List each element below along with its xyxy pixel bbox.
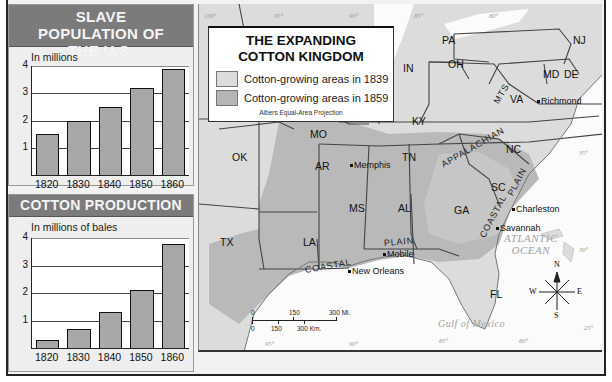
- scale-tick: [252, 317, 253, 324]
- compass-n: N: [554, 260, 560, 269]
- bar-1850: [130, 290, 153, 348]
- city-new-orleans: New Orleans: [348, 266, 404, 276]
- x-tick-label: 1840: [94, 178, 126, 190]
- state-label-tn: TN: [402, 151, 416, 163]
- state-label-pa: PA: [442, 34, 455, 46]
- lat-label: 30°: [579, 246, 588, 253]
- x-tick-label: 1860: [156, 351, 188, 363]
- compass-w: W: [529, 287, 537, 296]
- city-dot-icon: [348, 270, 351, 273]
- x-tick-label: 1830: [62, 351, 94, 363]
- lon-label: 90°: [349, 340, 358, 347]
- bar-1830: [67, 121, 90, 176]
- city-richmond: Richmond: [537, 96, 582, 106]
- slave-population-plot: [31, 66, 189, 176]
- legend-swatch-1859: [216, 90, 238, 106]
- slave-population-title: SLAVE POPULATION OF THE U.S.: [9, 5, 193, 47]
- y-tick-label: 2: [18, 286, 28, 297]
- x-tick-label: 1840: [94, 351, 126, 363]
- lon-label: 80°: [489, 12, 498, 19]
- compass-e: E: [577, 287, 582, 296]
- scale-km-0: 0: [251, 325, 255, 332]
- city-dot-icon: [537, 100, 540, 103]
- cotton-production-title: COTTON PRODUCTION: [9, 195, 193, 217]
- y-tick-label: 3: [18, 86, 28, 97]
- state-label-ky: KY: [412, 115, 426, 127]
- state-label-va: VA: [510, 93, 523, 105]
- city-memphis: Memphis: [350, 160, 391, 170]
- state-label-ar: AR: [315, 160, 330, 172]
- city-dot-icon: [350, 164, 353, 167]
- map-title: THE EXPANDING COTTON KINGDOM: [209, 33, 393, 65]
- scale-km-150: 150: [271, 325, 282, 332]
- projection-note: Albers Equal-Area Projection: [209, 109, 393, 116]
- legend-swatch-1839: [216, 71, 238, 87]
- state-label-de: DE: [564, 68, 579, 80]
- state-label-nc: NC: [506, 143, 521, 155]
- state-label-la: LA: [303, 236, 316, 248]
- state-label-mo: MO: [310, 128, 327, 140]
- x-tick-label: 1850: [125, 178, 157, 190]
- legend-label-1859: Cotton-growing areas in 1859: [244, 92, 388, 104]
- cotton-production-unit: In millions of bales: [31, 221, 117, 233]
- scale-line: [252, 320, 336, 321]
- lon-label: 80°: [519, 337, 528, 344]
- state-label-in: IN: [403, 62, 414, 74]
- map-title-box: THE EXPANDING COTTON KINGDOM Cotton-grow…: [208, 26, 394, 122]
- state-label-oh: OH: [448, 58, 464, 70]
- bar-1840: [99, 107, 122, 175]
- city-dot-icon: [512, 208, 515, 211]
- map-title-line2: COTTON KINGDOM: [209, 49, 393, 65]
- bar-1860: [162, 244, 185, 349]
- x-tick-label: 1860: [156, 178, 188, 190]
- gulf-of-mexico-label: Gulf of Mexico: [438, 318, 505, 330]
- bar-1860: [162, 69, 185, 175]
- legend-item-1859: Cotton-growing areas in 1859: [216, 90, 388, 106]
- city-dot-icon: [383, 253, 386, 256]
- lat-label: 25°: [584, 324, 593, 331]
- x-tick-label: 1820: [31, 351, 63, 363]
- gridline-top: [32, 238, 189, 239]
- city-charleston: Charleston: [512, 204, 560, 214]
- state-label-ok: OK: [232, 151, 247, 163]
- map-title-line1: THE EXPANDING: [209, 33, 393, 49]
- cotton-production-title-text: COTTON PRODUCTION: [20, 197, 182, 213]
- state-label-nj: NJ: [573, 34, 586, 46]
- y-tick-label: 1: [18, 314, 28, 325]
- lon-label: 95°: [274, 12, 283, 19]
- bar-1840: [99, 312, 122, 348]
- x-tick-label: 1850: [125, 351, 157, 363]
- y-tick-label: 1: [18, 141, 28, 152]
- state-label-md: MD: [543, 68, 559, 80]
- x-tick-label: 1820: [31, 178, 63, 190]
- state-label-al: AL: [398, 202, 411, 214]
- state-label-tx: TX: [220, 236, 233, 248]
- state-label-fl: FL: [490, 288, 502, 300]
- lon-label: 90°: [349, 12, 358, 19]
- bar-1850: [130, 88, 153, 175]
- state-label-sc: SC: [491, 181, 506, 193]
- y-tick-label: 3: [18, 259, 28, 270]
- bar-1820: [36, 340, 59, 348]
- legend-label-1839: Cotton-growing areas in 1839: [244, 73, 388, 85]
- lat-label: 35°: [579, 149, 588, 156]
- scale-km-300: 300 Km.: [297, 325, 321, 332]
- y-tick-label: 4: [18, 231, 28, 242]
- cotton-production-panel: COTTON PRODUCTION In millions of bales 1…: [8, 194, 194, 372]
- bar-1820: [36, 134, 59, 175]
- compass-rose-icon: [539, 272, 575, 310]
- slave-population-panel: SLAVE POPULATION OF THE U.S. In millions…: [8, 4, 194, 186]
- scale-tick: [304, 320, 305, 324]
- state-label-ms: MS: [349, 202, 365, 214]
- slave-population-unit: In millions: [31, 51, 78, 63]
- city-mobile: Mobile: [383, 249, 414, 259]
- scale-tick: [336, 317, 337, 321]
- lon-label: 100°: [204, 12, 216, 19]
- scale-bar: 0 150 300 Mi. 0 150 300 Km.: [251, 309, 341, 339]
- x-tick-label: 1830: [62, 178, 94, 190]
- gridline-top: [32, 66, 189, 67]
- y-tick-label: 4: [18, 59, 28, 70]
- scale-tick: [293, 317, 294, 321]
- state-label-ga: GA: [454, 204, 469, 216]
- bar-1830: [67, 329, 90, 348]
